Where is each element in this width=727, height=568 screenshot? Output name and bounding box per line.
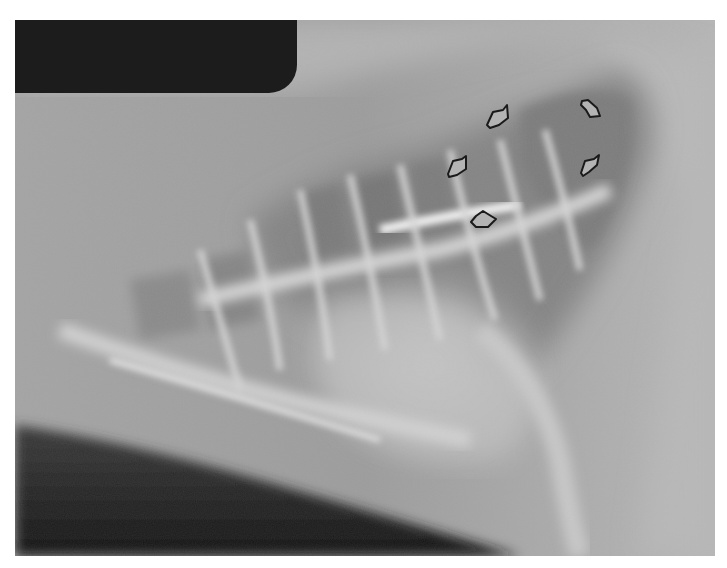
radiograph-drawing [15,20,715,556]
film-label-block [15,20,297,93]
radiograph-image [15,20,715,556]
